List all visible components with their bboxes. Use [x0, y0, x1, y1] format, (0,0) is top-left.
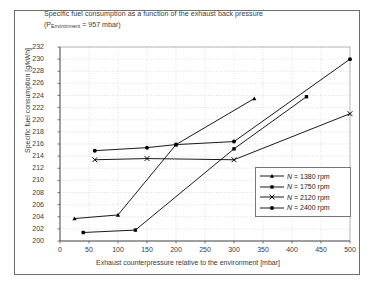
- legend-label: N = 1380 rpm: [285, 173, 330, 180]
- data-point: [145, 146, 149, 150]
- data-point: [82, 231, 85, 234]
- data-point: [134, 228, 137, 231]
- legend-marker-square: [259, 182, 285, 192]
- legend-item-1[interactable]: N = 1380 rpm: [259, 171, 346, 182]
- legend-label: N = 1750 rpm: [285, 183, 330, 190]
- data-point: [232, 140, 236, 144]
- data-point: [348, 57, 352, 61]
- legend-item-3[interactable]: N = 2120 rpm: [259, 192, 346, 203]
- chart-legend: N = 1380 rpmN = 1750 rpmN = 2120 rpmN = …: [255, 167, 351, 217]
- data-point: [305, 95, 308, 98]
- legend-item-4[interactable]: N = 2400 rpm: [259, 203, 346, 214]
- data-point: [93, 149, 97, 153]
- plot-area: [0, 0, 376, 290]
- data-point: [232, 147, 235, 150]
- legend-label: N = 2400 rpm: [285, 204, 330, 211]
- legend-item-2[interactable]: N = 1750 rpm: [259, 182, 346, 193]
- data-point: [252, 96, 256, 100]
- series-3: [92, 111, 352, 162]
- series-line: [95, 114, 350, 160]
- series-line: [95, 59, 350, 151]
- legend-marker-triangle: [259, 171, 285, 181]
- legend-marker-circle: [259, 203, 285, 213]
- data-point: [174, 143, 178, 147]
- legend-symbol: [270, 185, 273, 188]
- legend-label: N = 2120 rpm: [285, 194, 330, 201]
- legend-marker-cross: [259, 192, 285, 202]
- legend-symbol: [270, 206, 274, 210]
